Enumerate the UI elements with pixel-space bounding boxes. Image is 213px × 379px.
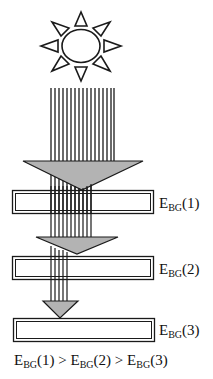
- absorption-arrow-2: [36, 237, 118, 254]
- absorption-arrow-1: [23, 161, 143, 190]
- layer-label-1: EBG(1): [159, 196, 200, 213]
- layer-bar-3: [14, 319, 155, 342]
- sun-icon: [41, 12, 121, 81]
- layer-label-2: EBG(2): [159, 262, 200, 279]
- light-rays-transmitted-2: [51, 246, 67, 302]
- layer-bar-2: [13, 257, 154, 280]
- bandgap-relation: EBG(1) > EBG(2) > EBG(3): [14, 353, 168, 370]
- light-rays-transmitted-1: [51, 214, 91, 237]
- absorption-arrow-3: [43, 301, 78, 318]
- layer-label-3: EBG(3): [159, 323, 200, 340]
